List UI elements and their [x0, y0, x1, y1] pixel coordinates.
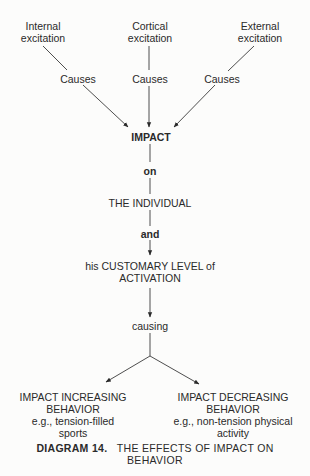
source-internal-line2: excitation	[21, 32, 65, 44]
outcome-decreasing-line4: activity	[173, 427, 292, 439]
connector-and: and	[141, 228, 160, 240]
source-internal: Internal excitation	[21, 20, 65, 44]
node-impact: IMPACT	[131, 131, 170, 143]
caption-text-line1: THE EFFECTS OF IMPACT ON	[117, 442, 274, 454]
edge-branch-to-increasing	[106, 356, 150, 382]
source-external-line2: excitation	[238, 32, 282, 44]
caption-text-line2: BEHAVIOR	[0, 454, 310, 466]
figure-caption: DIAGRAM 14. THE EFFECTS OF IMPACT ON BEH…	[0, 442, 310, 466]
edge-internal-to-causes	[43, 46, 67, 70]
edge-left-causes-to-impact	[83, 85, 128, 127]
connector-causes-left: Causes	[60, 73, 96, 85]
node-customary-activation: his CUSTOMARY LEVEL of ACTIVATION	[85, 260, 215, 284]
connector-on: on	[144, 165, 157, 177]
edge-external-to-causes	[228, 46, 254, 71]
caption-line1: DIAGRAM 14. THE EFFECTS OF IMPACT ON	[0, 442, 310, 454]
node-individual: THE INDIVIDUAL	[109, 197, 192, 209]
source-cortical: Cortical excitation	[128, 20, 172, 44]
source-internal-line1: Internal	[21, 20, 65, 32]
outcome-decreasing-line3: e.g., non-tension physical	[173, 415, 292, 427]
connector-causes-right: Causes	[204, 73, 240, 85]
edge-right-causes-to-impact	[174, 85, 215, 127]
source-cortical-line1: Cortical	[128, 20, 172, 32]
caption-label: DIAGRAM 14.	[36, 442, 107, 454]
source-external-line1: External	[238, 20, 282, 32]
connector-causes-center: Causes	[132, 73, 168, 85]
outcome-increasing-line3: e.g., tension-filled	[20, 415, 127, 427]
customary-line1: his CUSTOMARY LEVEL of	[85, 260, 215, 272]
edge-branch-to-decreasing	[150, 356, 199, 384]
outcome-increasing: IMPACT INCREASING BEHAVIOR e.g., tension…	[20, 391, 127, 439]
outcome-decreasing-line1: IMPACT DECREASING	[173, 391, 292, 403]
source-external: External excitation	[238, 20, 282, 44]
customary-line2: ACTIVATION	[85, 272, 215, 284]
outcome-decreasing-line2: BEHAVIOR	[173, 403, 292, 415]
outcome-decreasing: IMPACT DECREASING BEHAVIOR e.g., non-ten…	[173, 391, 292, 439]
outcome-increasing-line4: sports	[20, 427, 127, 439]
source-cortical-line2: excitation	[128, 32, 172, 44]
connector-causing: causing	[132, 320, 168, 332]
outcome-increasing-line1: IMPACT INCREASING	[20, 391, 127, 403]
outcome-increasing-line2: BEHAVIOR	[20, 403, 127, 415]
